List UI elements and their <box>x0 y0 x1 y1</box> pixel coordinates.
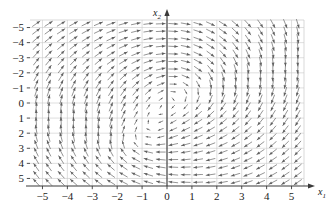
x-tick-label: 0 <box>164 190 170 202</box>
x-tick-label: 5 <box>289 190 295 202</box>
y-tick-label: 2 <box>19 127 25 139</box>
y-tick-label: 3 <box>19 142 25 154</box>
x-tick-label: −1 <box>136 190 148 202</box>
y-tick-label: −3 <box>12 52 24 64</box>
x-tick-label: 4 <box>264 190 270 202</box>
x-tick-label: −2 <box>111 190 123 202</box>
y-tick-label: 4 <box>19 157 25 169</box>
x-tick-label: 3 <box>239 190 245 202</box>
x-tick-label: 2 <box>214 190 220 202</box>
direction-field-figure: −5−4−3−2−1012345543210−1−2−3−4−5 x2x1 <box>0 0 327 220</box>
x-axis-title-subscript: 1 <box>322 192 326 200</box>
x-tick-label: 1 <box>189 190 195 202</box>
y-tick-label: −5 <box>12 21 24 33</box>
x-tick-label: −3 <box>86 190 98 202</box>
y-tick-label: 5 <box>19 172 25 184</box>
y-tick-label: −4 <box>12 36 24 48</box>
direction-field-svg: −5−4−3−2−1012345543210−1−2−3−4−5 x2x1 <box>0 0 327 220</box>
x-tick-label: −4 <box>62 190 74 202</box>
x-tick-label: −5 <box>37 190 49 202</box>
y-axis-title-subscript: 2 <box>157 13 161 21</box>
y-tick-label: 1 <box>19 112 25 124</box>
y-tick-label: −1 <box>12 82 24 94</box>
y-tick-label: −2 <box>12 67 24 79</box>
y-tick-label: 0 <box>19 97 25 109</box>
